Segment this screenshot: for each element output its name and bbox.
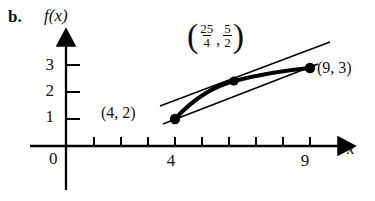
- x-axis-label: x: [347, 140, 355, 157]
- point-label-left: (4, 2): [101, 105, 136, 121]
- tangent-line: [160, 42, 330, 106]
- x-tick-label-4: 4: [163, 152, 179, 169]
- x-axis-ticks: [94, 137, 310, 146]
- fraction-y-denominator: 2: [223, 35, 232, 49]
- paren-open: (: [187, 22, 198, 50]
- origin-label: 0: [49, 150, 58, 167]
- coordinate-comma: ,: [215, 32, 222, 50]
- figure-container: b. f(x) x 0 1 2 3 4 9 (4, 2) (9, 3) ( 25…: [0, 0, 375, 201]
- fraction-x: 25 4: [199, 22, 214, 50]
- fraction-x-denominator: 4: [203, 35, 212, 49]
- point-marker-mid: [229, 76, 238, 85]
- fraction-y: 5 2: [223, 22, 232, 50]
- y-tick-label-2: 2: [40, 82, 54, 99]
- y-tick-label-1: 1: [40, 108, 54, 125]
- y-axis-ticks: [66, 65, 80, 119]
- y-tick-label-3: 3: [40, 56, 54, 73]
- point-marker-right: [305, 63, 315, 73]
- fraction-x-numerator: 25: [199, 22, 214, 35]
- point-label-right: (9, 3): [317, 60, 352, 76]
- fraction-y-numerator: 5: [223, 22, 232, 35]
- point-marker-left: [170, 114, 180, 124]
- y-axis-label: f(x): [44, 7, 68, 24]
- point-label-mid: ( 25 4 , 5 2 ): [187, 22, 244, 50]
- x-tick-label-9: 9: [297, 152, 313, 169]
- paren-close: ): [233, 22, 244, 50]
- part-label: b.: [8, 8, 22, 25]
- secant-line: [163, 64, 318, 124]
